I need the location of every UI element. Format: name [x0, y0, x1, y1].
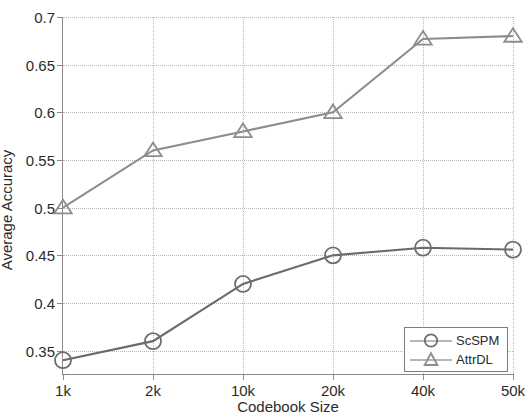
- y-axis-tick-label: 0.4: [34, 295, 55, 312]
- x-axis-tick-label: 10k: [231, 382, 255, 399]
- legend-label-scspm: ScSPM: [456, 333, 499, 348]
- chart-figure: Average Accuracy Codebook Size 0.350.40.…: [0, 0, 528, 420]
- y-axis-tick-label: 0.35: [26, 342, 55, 359]
- x-axis-tick-label: 2k: [145, 382, 161, 399]
- chart-legend[interactable]: ScSPM AttrDL: [404, 327, 508, 372]
- y-axis-tick-label: 0.5: [34, 199, 55, 216]
- legend-label-attrdl: AttrDL: [456, 352, 493, 367]
- circle-marker-icon: [409, 331, 453, 350]
- legend-item-scspm[interactable]: ScSPM: [409, 331, 503, 350]
- x-axis-tick-label: 50k: [501, 382, 525, 399]
- series-svg: [63, 17, 514, 375]
- plot-area: 0.350.40.450.50.550.60.650.71k2k10k20k40…: [62, 17, 513, 375]
- x-axis-tick-label: 40k: [411, 382, 435, 399]
- y-axis-title: Average Accuracy: [0, 150, 15, 271]
- y-axis-tick-label: 0.6: [34, 104, 55, 121]
- x-axis-tick-label: 20k: [321, 382, 345, 399]
- x-axis-tick-label: 1k: [55, 382, 71, 399]
- series-line-attrdl: [63, 36, 513, 208]
- legend-item-attrdl[interactable]: AttrDL: [409, 350, 503, 369]
- data-series-layer: [63, 17, 513, 374]
- y-axis-tick-label: 0.45: [26, 247, 55, 264]
- y-axis-tick-label: 0.55: [26, 152, 55, 169]
- triangle-marker-icon: [409, 350, 453, 369]
- x-axis-title: Codebook Size: [237, 398, 339, 415]
- data-point-attrdl: [504, 28, 521, 42]
- y-axis-tick-label: 0.7: [34, 9, 55, 26]
- y-axis-tick-label: 0.65: [26, 56, 55, 73]
